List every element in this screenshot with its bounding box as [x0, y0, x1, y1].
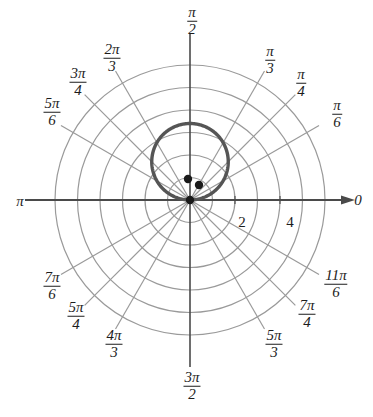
- fraction-numerator: π: [296, 67, 306, 84]
- fraction-denominator: 6: [43, 287, 60, 303]
- fraction-numerator: 2π: [103, 42, 120, 59]
- theta-label-pi-over-2: π 2: [187, 5, 197, 38]
- fraction-pi-4: π 4: [296, 67, 306, 100]
- fraction-denominator: 3: [265, 345, 282, 361]
- fraction-denominator: 3: [103, 59, 120, 75]
- fraction-2pi-3: 2π 3: [103, 42, 120, 75]
- fraction-denominator: 2: [183, 387, 200, 403]
- fraction-numerator: 5π: [43, 96, 60, 113]
- grid-spoke-6: [85, 95, 190, 200]
- fraction-3pi-4: 3π 4: [69, 66, 86, 99]
- fraction-5pi-6: 5π 6: [43, 96, 60, 129]
- fraction-pi-3: π 3: [265, 44, 275, 77]
- fraction-11pi-6: 11π 6: [324, 268, 347, 301]
- fraction-denominator: 6: [332, 115, 342, 131]
- theta-label-11pi-over-6: 11π 6: [324, 268, 347, 301]
- polar-plot-canvas: [0, 0, 373, 417]
- fraction-5pi-3: 5π 3: [265, 328, 282, 361]
- fraction-numerator: 4π: [105, 328, 122, 345]
- polar-axis-arrowhead: [341, 195, 355, 204]
- fraction-5pi-4: 5π 4: [67, 300, 84, 333]
- theta-label-pi-over-6: π 6: [332, 98, 342, 131]
- fraction-numerator: π: [332, 98, 342, 115]
- polar-plot-figure: 0 π 6 π 4 π 3 π 2 2π 3 3π 4: [0, 0, 373, 417]
- fraction-numerator: 11π: [324, 268, 347, 285]
- grid-spoke-2: [190, 95, 295, 200]
- fraction-4pi-3: 4π 3: [105, 328, 122, 361]
- data-point-3: [195, 181, 203, 189]
- fraction-numerator: 5π: [67, 300, 84, 317]
- fraction-numerator: π: [265, 44, 275, 61]
- fraction-3pi-2: 3π 2: [183, 370, 200, 403]
- theta-label-2pi-over-3: 2π 3: [103, 42, 120, 75]
- fraction-numerator: 3π: [183, 370, 200, 387]
- theta-label-7pi-over-4: 7π 4: [298, 298, 315, 331]
- fraction-7pi-4: 7π 4: [298, 298, 315, 331]
- data-point-1: [186, 196, 194, 204]
- fraction-pi-2: π 2: [187, 5, 197, 38]
- r-tick-label-4: 4: [286, 214, 294, 231]
- theta-label-5pi-over-3: 5π 3: [265, 328, 282, 361]
- fraction-numerator: 7π: [43, 270, 60, 287]
- fraction-denominator: 2: [187, 22, 197, 38]
- fraction-denominator: 3: [105, 345, 122, 361]
- theta-label-0: 0: [354, 192, 362, 208]
- theta-label-3pi-over-4: 3π 4: [69, 66, 86, 99]
- grid-spoke-10: [85, 200, 190, 305]
- fraction-denominator: 4: [296, 84, 306, 100]
- fraction-denominator: 4: [69, 83, 86, 99]
- theta-label-pi-text: π: [16, 194, 24, 209]
- fraction-numerator: 5π: [265, 328, 282, 345]
- theta-label-5pi-over-6: 5π 6: [43, 96, 60, 129]
- fraction-denominator: 6: [324, 285, 347, 301]
- fraction-denominator: 3: [265, 61, 275, 77]
- theta-label-pi: π: [16, 193, 24, 209]
- fraction-denominator: 4: [298, 315, 315, 331]
- theta-label-pi-over-4: π 4: [296, 67, 306, 100]
- theta-label-3pi-over-2: 3π 2: [183, 370, 200, 403]
- theta-label-pi-over-3: π 3: [265, 44, 275, 77]
- fraction-numerator: 7π: [298, 298, 315, 315]
- fraction-numerator: 3π: [69, 66, 86, 83]
- data-point-2: [184, 175, 192, 183]
- theta-label-0-text: 0: [354, 193, 362, 208]
- r-tick-label-2: 2: [238, 214, 246, 231]
- theta-label-5pi-over-4: 5π 4: [67, 300, 84, 333]
- fraction-numerator: π: [187, 5, 197, 22]
- fraction-denominator: 6: [43, 113, 60, 129]
- fraction-pi-6: π 6: [332, 98, 342, 131]
- fraction-denominator: 4: [67, 317, 84, 333]
- fraction-7pi-6: 7π 6: [43, 270, 60, 303]
- theta-label-7pi-over-6: 7π 6: [43, 270, 60, 303]
- theta-label-4pi-over-3: 4π 3: [105, 328, 122, 361]
